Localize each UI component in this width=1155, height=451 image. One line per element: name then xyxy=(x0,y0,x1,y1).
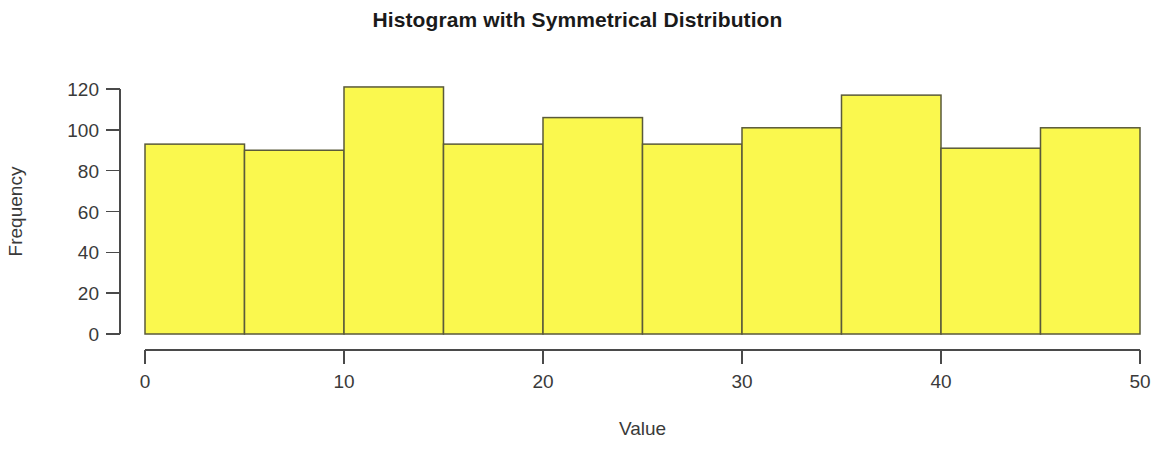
histogram-bar xyxy=(842,95,942,334)
x-tick-label: 40 xyxy=(930,371,951,392)
y-axis: 020406080100120 xyxy=(67,79,120,345)
y-tick-label: 100 xyxy=(67,120,99,141)
histogram-plot: Histogram with Symmetrical Distribution … xyxy=(0,0,1155,451)
histogram-bar xyxy=(245,150,345,334)
y-tick-label: 120 xyxy=(67,79,99,100)
histogram-bar xyxy=(941,148,1041,334)
x-tick-label: 10 xyxy=(333,371,354,392)
histogram-bar xyxy=(1041,128,1141,334)
y-axis-title: Frequency xyxy=(5,166,26,256)
histogram-bar xyxy=(145,144,245,334)
x-axis: 01020304050 xyxy=(140,350,1151,392)
x-tick-label: 20 xyxy=(532,371,553,392)
histogram-bar xyxy=(543,118,643,334)
histogram-bar xyxy=(444,144,544,334)
y-tick-label: 0 xyxy=(88,324,99,345)
y-tick-label: 20 xyxy=(78,283,99,304)
histogram-bar xyxy=(344,87,444,334)
histogram-bar xyxy=(643,144,743,334)
bars-group xyxy=(145,87,1140,334)
x-tick-label: 30 xyxy=(731,371,752,392)
histogram-bar xyxy=(742,128,842,334)
x-axis-title: Value xyxy=(619,418,666,439)
y-tick-label: 80 xyxy=(78,161,99,182)
y-tick-label: 60 xyxy=(78,202,99,223)
x-tick-label: 50 xyxy=(1129,371,1150,392)
y-tick-label: 40 xyxy=(78,242,99,263)
x-tick-label: 0 xyxy=(140,371,151,392)
plot-canvas: 020406080100120 01020304050 ValueFrequen… xyxy=(0,0,1155,451)
